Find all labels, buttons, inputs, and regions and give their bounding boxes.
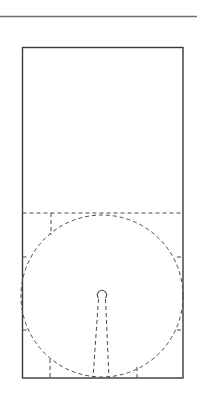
dashed-circle (21, 215, 183, 377)
keyhole-shape (93, 290, 109, 378)
keyhole-right-stem (106, 299, 110, 378)
keyhole-left-stem (93, 299, 99, 378)
keyhole-head (97, 290, 106, 297)
technical-drawing (0, 0, 198, 411)
drawing-svg (0, 0, 198, 411)
